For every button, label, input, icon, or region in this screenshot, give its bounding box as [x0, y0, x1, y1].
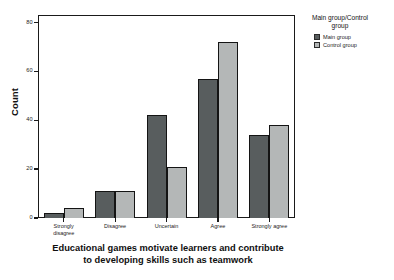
legend-title-line-2: group [300, 22, 380, 30]
legend-title-line-1: Main group/Control [300, 14, 380, 22]
legend-entry: Main group [314, 34, 392, 40]
bar-group [89, 15, 140, 218]
y-axis-tick-label: 20 [26, 166, 34, 172]
legend: Main group/Control group Main groupContr… [300, 14, 392, 49]
bars-container [38, 15, 295, 218]
bar-main-group [198, 79, 218, 218]
x-axis-tick-label: Stronglydisagree [44, 223, 84, 236]
x-axis-tick-label: Agree [198, 223, 238, 230]
bar-group [244, 15, 295, 218]
bar-main-group [95, 191, 115, 218]
x-axis-category: Disagree [89, 218, 140, 244]
bar-control-group [269, 125, 289, 218]
legend-swatch-control-group [314, 42, 320, 48]
bar-control-group [64, 208, 84, 218]
x-axis-tick-label-line: Disagree [95, 223, 135, 230]
x-axis-tick-label: Disagree [95, 223, 135, 230]
x-axis-tick-label-line: Strongly [44, 223, 84, 230]
x-axis-category: Strongly agree [244, 218, 295, 244]
x-axis-tick-label: Strongly agree [249, 223, 289, 230]
x-axis-tick-label-line: disagree [44, 230, 84, 237]
bar-control-group [218, 42, 238, 218]
bar-group [38, 15, 89, 218]
x-axis-tick-label-line: Strongly agree [249, 223, 289, 230]
legend-entry: Control group [314, 42, 392, 48]
x-axis-category: Agree [192, 218, 243, 244]
y-axis-tick-label: 80 [26, 20, 34, 26]
x-axis-title: Educational games motivate learners and … [18, 243, 318, 267]
bar-group [192, 15, 243, 218]
bar-chart-figure: 020406080 Count StronglydisagreeDisagree… [0, 0, 394, 280]
y-axis-tick-label: 40 [26, 117, 34, 123]
legend-entry-label: Control group [323, 42, 357, 48]
x-axis: StronglydisagreeDisagreeUncertainAgreeSt… [38, 218, 295, 244]
y-axis-title: Count [9, 88, 20, 116]
bar-control-group [115, 191, 135, 218]
x-axis-tick-mark [217, 218, 218, 222]
legend-title: Main group/Control group [300, 14, 380, 30]
legend-entry-label: Main group [323, 34, 351, 40]
x-axis-tick-mark [63, 218, 64, 222]
bar-group [141, 15, 192, 218]
bar-main-group [249, 135, 269, 218]
legend-items: Main groupControl group [300, 34, 392, 48]
x-axis-tick-mark [115, 218, 116, 222]
x-axis-category: Stronglydisagree [38, 218, 89, 244]
bar-main-group [147, 115, 167, 218]
y-axis: 020406080 [0, 0, 38, 280]
y-axis-tick-label: 60 [26, 68, 34, 74]
x-axis-title-line-2: to developing skills such as teamwork [18, 255, 318, 267]
x-axis-category: Uncertain [141, 218, 192, 244]
x-axis-tick-label-line: Agree [198, 223, 238, 230]
x-axis-tick-mark [166, 218, 167, 222]
legend-swatch-main-group [314, 34, 320, 40]
x-axis-tick-label: Uncertain [147, 223, 187, 230]
x-axis-title-line-1: Educational games motivate learners and … [18, 243, 318, 255]
x-axis-tick-mark [269, 218, 270, 222]
bar-control-group [167, 167, 187, 218]
x-axis-tick-label-line: Uncertain [147, 223, 187, 230]
